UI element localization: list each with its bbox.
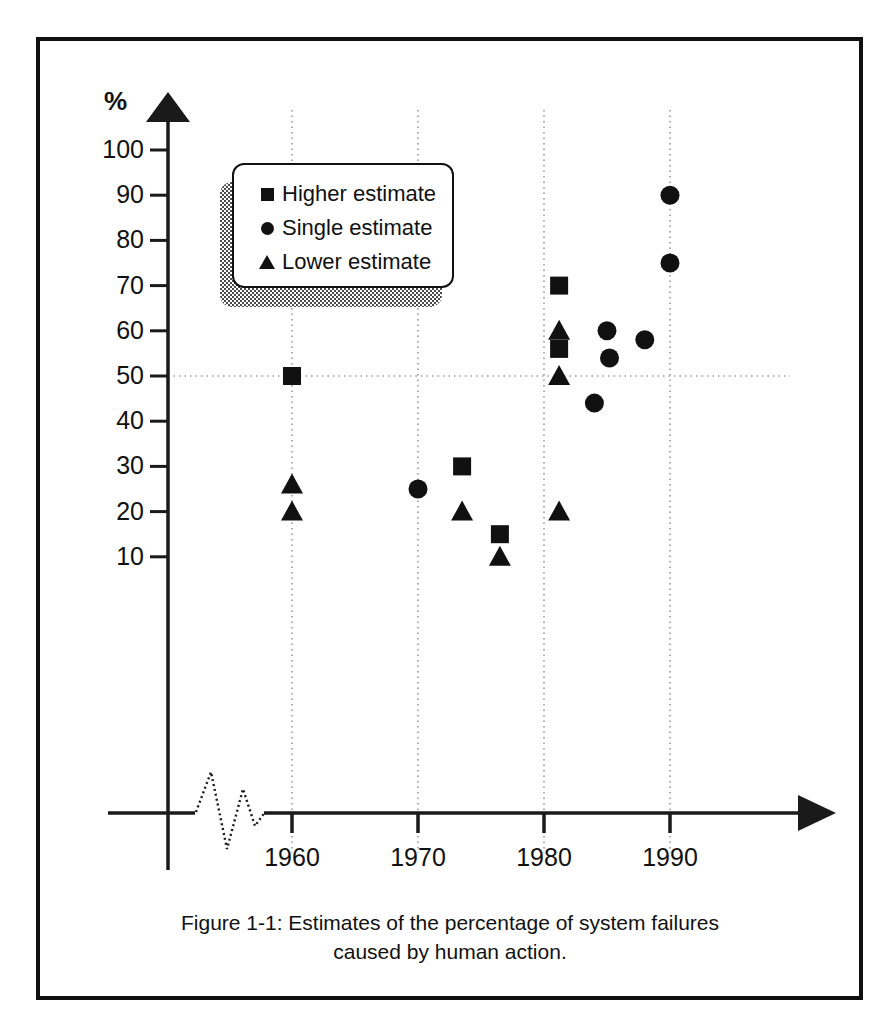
y-tick-label-10: 10 — [74, 542, 144, 571]
circle-glyph — [261, 222, 274, 235]
y-tick-label-40: 40 — [74, 406, 144, 435]
legend-label: Lower estimate — [282, 249, 431, 275]
legend-item-circle: Single estimate — [234, 211, 452, 245]
x-tick-label-1990: 1990 — [625, 843, 715, 872]
square-glyph — [261, 188, 274, 201]
x-tick-label-1980: 1980 — [499, 843, 589, 872]
y-tick-label-90: 90 — [74, 180, 144, 209]
square-marker-icon — [252, 188, 282, 201]
legend-item-square: Higher estimate — [234, 177, 452, 211]
triangle-glyph — [259, 255, 275, 269]
figure-container: % 102030405060708090100 1960197019801990… — [0, 0, 893, 1034]
circle-marker-icon — [252, 222, 282, 235]
triangle-marker-icon — [252, 255, 282, 269]
caption-line-2: caused by human action. — [60, 937, 840, 966]
legend-label: Higher estimate — [282, 181, 436, 207]
y-tick-label-30: 30 — [74, 451, 144, 480]
legend-item-triangle: Lower estimate — [234, 245, 452, 279]
x-tick-label-1970: 1970 — [373, 843, 463, 872]
y-axis-unit-label: % — [104, 86, 127, 117]
figure-caption: Figure 1-1: Estimates of the percentage … — [60, 908, 840, 966]
y-tick-label-50: 50 — [74, 361, 144, 390]
y-tick-label-20: 20 — [74, 497, 144, 526]
legend-label: Single estimate — [282, 215, 432, 241]
y-tick-label-70: 70 — [74, 271, 144, 300]
caption-line-1: Figure 1-1: Estimates of the percentage … — [60, 908, 840, 937]
x-tick-label-1960: 1960 — [247, 843, 337, 872]
y-tick-label-100: 100 — [74, 135, 144, 164]
y-tick-label-80: 80 — [74, 225, 144, 254]
legend-box: Higher estimateSingle estimateLower esti… — [232, 163, 454, 288]
y-tick-label-60: 60 — [74, 316, 144, 345]
